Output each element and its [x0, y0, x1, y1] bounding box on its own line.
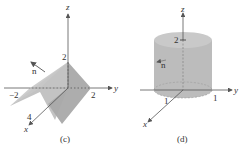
figure-c: z y x 2 −2 2 4 n (c) — [4, 2, 118, 144]
z-axis-label: z — [65, 2, 70, 12]
normal-vector-label: n — [32, 66, 37, 76]
y-neg-tick-label: −2 — [9, 90, 19, 100]
diagram-canvas: z y x 2 −2 2 4 n (c) z y x 2 1 1 n (d) — [0, 0, 240, 149]
x-tick-label: 4 — [27, 112, 32, 122]
y-tick-label: 1 — [213, 93, 218, 103]
x-tick-label: 1 — [164, 96, 169, 106]
x-axis-label: x — [23, 124, 28, 134]
figure-caption: (d) — [177, 134, 188, 144]
z-tick-label: 2 — [174, 35, 179, 45]
y-pos-tick-label: 2 — [91, 90, 96, 100]
figure-caption: (c) — [60, 134, 70, 144]
normal-vector-label: n — [161, 60, 166, 70]
figure-d: z y x 2 1 1 n (d) — [140, 4, 238, 144]
z-tick-label: 2 — [62, 52, 67, 62]
y-axis-label: y — [233, 85, 238, 95]
y-axis-label: y — [113, 83, 118, 93]
z-axis-label: z — [180, 4, 185, 14]
x-axis-label: x — [142, 119, 147, 129]
